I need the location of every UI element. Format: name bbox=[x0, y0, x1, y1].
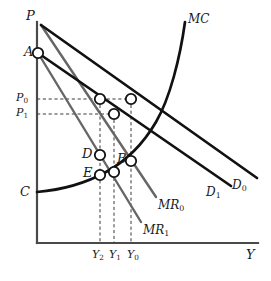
marker-A bbox=[33, 48, 43, 58]
price-tick-1: P1 bbox=[16, 107, 28, 118]
curve-label-marginal-revenue-1: MR1 bbox=[143, 224, 169, 236]
marker-G bbox=[95, 94, 105, 104]
quantity-tick-2: Y2 bbox=[92, 249, 104, 260]
marginal-cost-curve bbox=[37, 22, 185, 192]
curve-label-demand-0: D0 bbox=[232, 179, 247, 191]
price-tick-0: P0 bbox=[16, 92, 28, 103]
marker-D bbox=[95, 150, 105, 160]
x-axis-label: Y bbox=[246, 248, 255, 261]
demand-0-line bbox=[41, 25, 257, 178]
marker-H bbox=[109, 109, 119, 119]
diagram-canvas bbox=[0, 0, 271, 281]
y-axis-label: P bbox=[26, 9, 35, 22]
point-label-B: B bbox=[117, 152, 127, 165]
marker-K bbox=[126, 94, 136, 104]
curve-label-demand-1: D1 bbox=[206, 186, 221, 198]
marker-F bbox=[109, 167, 119, 177]
curve-label-marginal-revenue-0: MR0 bbox=[158, 199, 184, 211]
point-label-D: D bbox=[82, 147, 92, 160]
quantity-tick-0: Y0 bbox=[127, 249, 139, 260]
axis-group bbox=[37, 22, 258, 243]
economics-diagram: P Y P0 P1 Y2 Y1 Y0 A C D B E MC D0 D1 bbox=[0, 0, 271, 281]
point-label-A: A bbox=[24, 45, 33, 58]
marginal-cost-path bbox=[37, 22, 185, 192]
point-label-E: E bbox=[83, 166, 93, 179]
point-label-C: C bbox=[20, 185, 30, 198]
marker-E bbox=[95, 170, 105, 180]
marker-B bbox=[126, 156, 136, 166]
curve-label-marginal-cost: MC bbox=[188, 13, 209, 25]
quantity-tick-1: Y1 bbox=[109, 249, 121, 260]
marginal-revenue-1-line bbox=[38, 53, 141, 222]
